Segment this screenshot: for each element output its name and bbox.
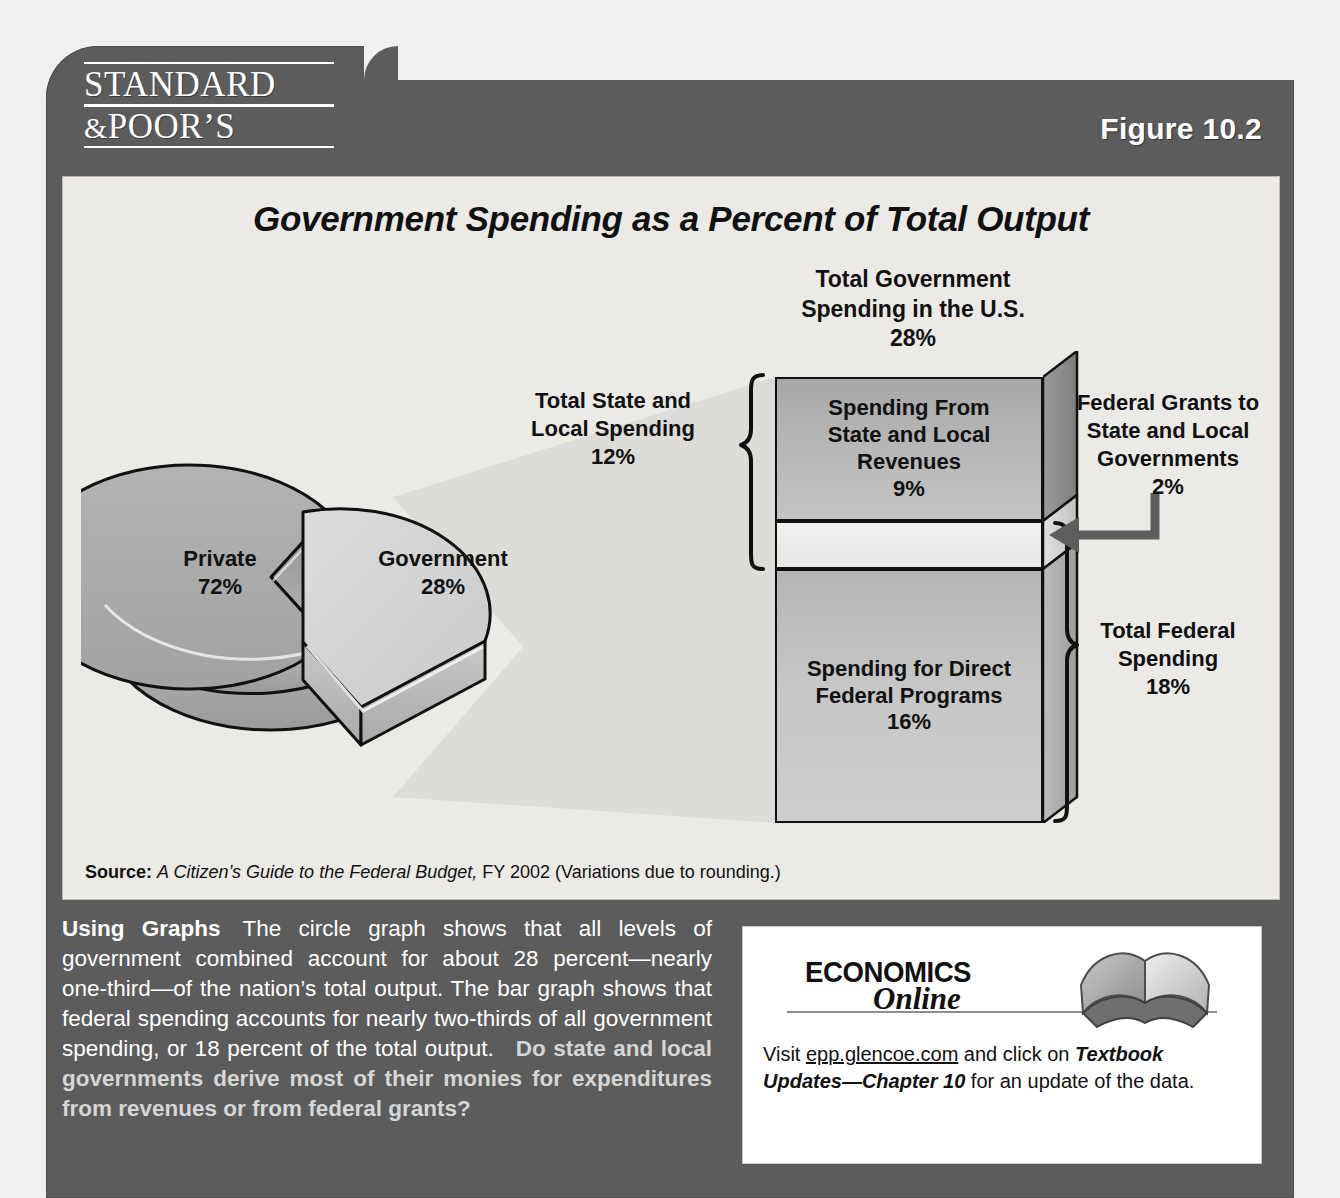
caption-lead: Using Graphs xyxy=(62,916,221,941)
source-title: A Citizen’s Guide to the Federal Budget, xyxy=(157,862,477,882)
economics-online-box: ECONOMICS Online Visit epp.glencoe.com a… xyxy=(742,926,1262,1164)
label-fed-line1: Total Federal xyxy=(1073,617,1263,645)
logo-ampersand: & xyxy=(84,111,108,144)
economics-online-logo: ECONOMICS Online xyxy=(763,941,1241,1037)
label-state-local-value: 12% xyxy=(493,443,733,471)
label-grants-value: 2% xyxy=(1063,473,1273,501)
label-state-local-line2: Local Spending xyxy=(493,415,733,443)
label-total-state-and-local: Total State and Local Spending 12% xyxy=(493,387,733,471)
label-fed-line2: Spending xyxy=(1073,645,1263,673)
eco-text-pre: Visit xyxy=(763,1043,806,1065)
source-label: Source: xyxy=(85,862,152,882)
logo-text-standard: STANDARD xyxy=(84,64,334,104)
label-state-local-line1: Total State and xyxy=(493,387,733,415)
label-fed-value: 18% xyxy=(1073,673,1263,701)
chart-panel: Government Spending as a Percent of Tota… xyxy=(62,176,1280,900)
source-rest: FY 2002 (Variations due to rounding.) xyxy=(482,862,781,882)
eco-text-mid: and click on xyxy=(958,1043,1075,1065)
label-grants-line1: Federal Grants to xyxy=(1063,389,1273,417)
logo-rule-bottom xyxy=(84,146,334,148)
label-grants-line3: Governments xyxy=(1063,445,1273,473)
eco-text-post: for an update of the data. xyxy=(965,1070,1194,1092)
eco-link[interactable]: epp.glencoe.com xyxy=(806,1043,958,1065)
caption-block: Using GraphsThe circle graph shows that … xyxy=(62,914,712,1164)
economics-online-text: Visit epp.glencoe.com and click on Textb… xyxy=(763,1041,1241,1095)
source-line: Source: A Citizen’s Guide to the Federal… xyxy=(85,862,781,883)
standard-and-poors-logo: STANDARD &POOR’S xyxy=(84,62,334,148)
figure-page: STANDARD &POOR’S Figure 10.2 Government … xyxy=(0,0,1340,1198)
label-grants-line2: State and Local xyxy=(1063,417,1273,445)
label-total-federal-spending: Total Federal Spending 18% xyxy=(1073,617,1263,701)
frame-notch xyxy=(364,46,1294,80)
open-book-icon xyxy=(1063,941,1233,1033)
figure-number-label: Figure 10.2 xyxy=(1100,112,1262,146)
label-federal-grants: Federal Grants to State and Local Govern… xyxy=(1063,389,1273,502)
chart-annotations xyxy=(63,177,1279,899)
logo-text-poors: &POOR’S xyxy=(84,107,334,147)
logo-text-poors-word: POOR’S xyxy=(108,107,235,146)
